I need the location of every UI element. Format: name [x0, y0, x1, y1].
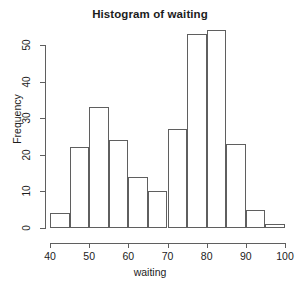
- y-axis-tick: [40, 45, 45, 46]
- y-axis-tick: [40, 118, 45, 119]
- x-axis-tick-label: 100: [265, 250, 300, 262]
- x-axis-label: waiting: [0, 266, 300, 278]
- y-axis-tick: [40, 82, 45, 83]
- y-axis-tick: [40, 155, 45, 156]
- histogram-bar: [265, 224, 285, 228]
- histogram-bar: [50, 213, 70, 228]
- histogram-bar: [168, 129, 188, 228]
- y-axis-tick-label: 20: [16, 149, 38, 161]
- x-axis-tick-label: 40: [30, 250, 70, 262]
- histogram-bar: [70, 147, 90, 228]
- x-axis-tick: [168, 243, 169, 248]
- histogram-bar: [109, 140, 129, 228]
- histogram-bar: [89, 107, 109, 228]
- histogram-bar: [187, 34, 207, 228]
- y-axis-tick: [40, 228, 45, 229]
- x-axis-tick-label: 60: [108, 250, 148, 262]
- x-axis-tick-label: 70: [148, 250, 188, 262]
- histogram-bar: [226, 144, 246, 228]
- x-axis-tick: [285, 243, 286, 248]
- x-axis-tick: [50, 243, 51, 248]
- plot-area: [50, 30, 285, 228]
- x-axis-tick: [128, 243, 129, 248]
- x-axis-tick-label: 50: [69, 250, 109, 262]
- histogram-bar: [128, 177, 148, 228]
- x-axis-tick-label: 80: [187, 250, 227, 262]
- x-axis-tick: [246, 243, 247, 248]
- histogram-bar: [246, 210, 266, 228]
- y-axis-tick-label: 0: [16, 222, 38, 234]
- x-axis-tick: [207, 243, 208, 248]
- histogram-figure: Histogram of waiting Frequency waiting 0…: [0, 0, 300, 291]
- x-axis-tick: [89, 243, 90, 248]
- y-axis-tick-label: 50: [16, 39, 38, 51]
- page-title: Histogram of waiting: [0, 8, 300, 20]
- x-axis-tick-label: 90: [226, 250, 266, 262]
- y-axis-tick-label: 10: [16, 185, 38, 197]
- y-axis-tick-label: 30: [16, 112, 38, 124]
- y-axis-tick-label: 40: [16, 76, 38, 88]
- y-axis-tick: [40, 191, 45, 192]
- histogram-bar: [207, 30, 227, 228]
- histogram-bar: [148, 191, 168, 228]
- y-axis-line: [45, 45, 46, 229]
